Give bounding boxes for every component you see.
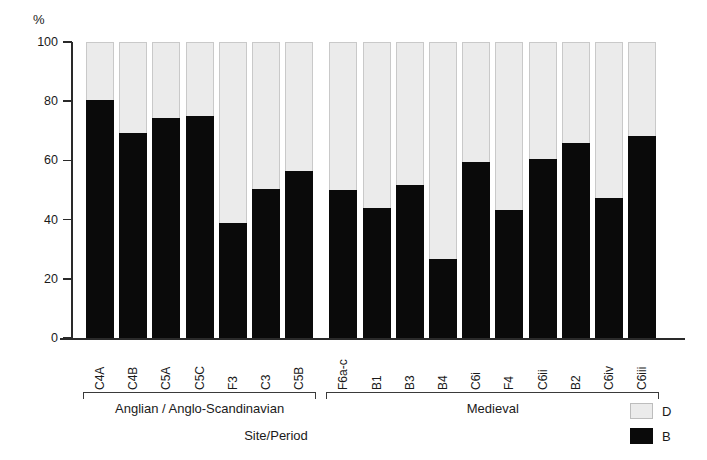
legend-item-b: B — [630, 425, 700, 447]
x-axis-label-c4a: C4A — [86, 344, 114, 390]
bar-b1 — [363, 42, 391, 338]
bar-segment-b — [429, 259, 457, 338]
x-axis-label-b1: B1 — [363, 344, 391, 390]
y-axis-tick-label: 40 — [28, 214, 58, 227]
x-axis-label-c5b: C5B — [285, 344, 313, 390]
y-axis-tick — [63, 337, 72, 339]
group-label: Anglian / Anglo-Scandinavian — [83, 402, 316, 416]
x-axis-label-c5a: C5A — [152, 344, 180, 390]
x-axis-label-c6iv: C6iv — [595, 344, 623, 390]
bar-segment-b — [86, 100, 114, 338]
bar-segment-b — [119, 133, 147, 338]
plot-area — [72, 42, 683, 338]
group-bracket — [83, 392, 316, 399]
y-axis-tick-label: 100 — [28, 36, 58, 49]
x-axis-label-c6ii: C6ii — [529, 344, 557, 390]
x-axis-label-c3: C3 — [252, 344, 280, 390]
bar-c6i — [462, 42, 490, 338]
y-axis-tick — [63, 160, 72, 162]
bar-f4 — [495, 42, 523, 338]
bar-segment-b — [363, 208, 391, 338]
bar-c5b — [285, 42, 313, 338]
y-axis-tick — [63, 100, 72, 102]
bar-c4a — [86, 42, 114, 338]
bar-segment-b — [462, 162, 490, 338]
y-axis-tick-label: 60 — [28, 154, 58, 167]
bar-segment-b — [252, 189, 280, 338]
x-axis-label-b2: B2 — [562, 344, 590, 390]
bar-f6a-c — [329, 42, 357, 338]
y-axis-tick — [63, 41, 72, 43]
y-axis-tick — [63, 219, 72, 221]
bar-b3 — [396, 42, 424, 338]
legend-label-b: B — [662, 429, 671, 444]
y-axis-tick — [63, 278, 72, 280]
x-axis-title: Site/Period — [196, 428, 356, 443]
bar-segment-b — [152, 118, 180, 338]
bar-segment-b — [495, 210, 523, 338]
x-axis-label-f3: F3 — [219, 344, 247, 390]
group-bracket — [326, 392, 659, 399]
y-axis-unit-label: % — [33, 12, 45, 27]
bar-segment-b — [529, 159, 557, 338]
x-axis-label-f4: F4 — [495, 344, 523, 390]
x-axis-label-f6a-c: F6a-c — [329, 344, 357, 390]
bar-segment-b — [562, 143, 590, 338]
bar-segment-b — [329, 190, 357, 338]
bar-c3 — [252, 42, 280, 338]
x-axis-label-b4: B4 — [429, 344, 457, 390]
bar-segment-b — [219, 223, 247, 338]
bar-c6iv — [595, 42, 623, 338]
bar-f3 — [219, 42, 247, 338]
bar-c6iii — [628, 42, 656, 338]
y-axis-tick-label: 20 — [28, 273, 58, 286]
group-label: Medieval — [326, 402, 659, 416]
bar-c6ii — [529, 42, 557, 338]
bar-b4 — [429, 42, 457, 338]
y-axis-tick-label: 80 — [28, 95, 58, 108]
bar-segment-b — [628, 136, 656, 338]
chart-legend: DB — [630, 400, 700, 450]
x-axis-label-c5c: C5C — [186, 344, 214, 390]
x-axis-label-c4b: C4B — [119, 344, 147, 390]
bar-segment-b — [285, 171, 313, 338]
bar-segment-b — [595, 198, 623, 338]
x-axis-label-c6i: C6i — [462, 344, 490, 390]
x-axis-baseline — [60, 338, 685, 340]
legend-label-d: D — [662, 404, 671, 419]
legend-swatch-b — [630, 428, 653, 444]
bar-segment-b — [186, 116, 214, 338]
legend-item-d: D — [630, 400, 700, 422]
bar-c5c — [186, 42, 214, 338]
bar-segment-b — [396, 185, 424, 338]
x-axis-label-b3: B3 — [396, 344, 424, 390]
bar-b2 — [562, 42, 590, 338]
stacked-bar-chart: % 020406080100 C4AC4BC5AC5CF3C3C5BF6a-cB… — [0, 0, 707, 460]
y-axis-tick-label: 0 — [28, 332, 58, 345]
bar-c4b — [119, 42, 147, 338]
x-axis-label-c6iii: C6iii — [628, 344, 656, 390]
legend-swatch-d — [630, 403, 653, 419]
bar-c5a — [152, 42, 180, 338]
